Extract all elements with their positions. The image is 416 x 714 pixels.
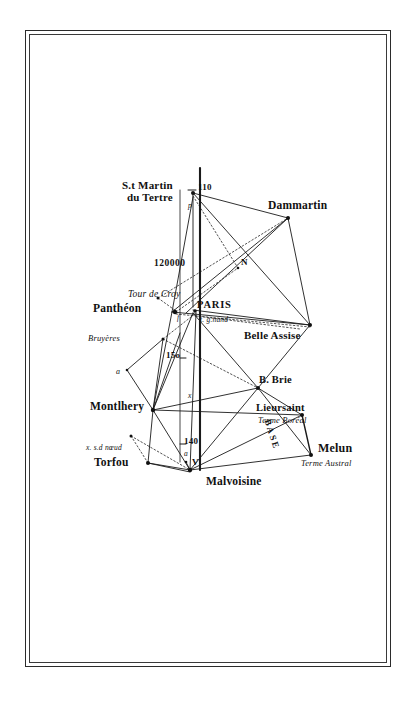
label-second-noeud: x. s.d nœud [86,444,122,452]
label-invalides: Tour de Croy [128,290,180,300]
label-brie: B. Brie [259,374,292,385]
side-dammartin-pantheon [172,218,288,312]
label-graduation-140: 140 [184,437,198,446]
side-montlhery-torfou [148,410,153,463]
side-montlhery-tourdecroy [153,339,163,410]
label-paris: PARIS [197,299,232,310]
point-melun [309,453,313,457]
label-montlhery: Montlhery [90,400,144,412]
label-graduation-110: 110 [198,183,212,192]
label-torfou: Torfou [94,456,129,468]
point-malvoisine [188,468,192,472]
label-st-martin-line2: du Tertre [127,191,173,203]
point-montlhery [151,408,155,412]
point-node-n [237,267,240,270]
label-pantheon: Panthéon [93,302,141,314]
side-melun-malvoisine [190,455,311,470]
label-node-f: f [177,314,179,322]
label-node-p: p [188,202,192,210]
label-lieursaint: Lieursaint [256,402,305,413]
label-node-x-montlhery: x [188,392,192,400]
point-torfou [146,461,150,465]
point-bruyeres [130,435,133,438]
label-tour-de-croy: Bruyères [88,334,120,343]
label-scale-denominator: 120000 [154,259,186,269]
label-st-martin-line1: S.t Martin [122,179,173,191]
label-belle-assise: Belle Assise [244,330,300,342]
point-tour-de-croy [162,338,165,341]
point-dammartin [286,216,290,220]
point-node-a-croy [126,369,129,372]
label-t-grenand: t. g.nand [200,316,228,324]
side-paris-brie [193,313,258,388]
side-a-tourdecroy [127,339,163,370]
point-st-martin-du-tertre [191,191,195,195]
label-terme-austral: Terme Austral [301,459,352,468]
point-brie [256,386,260,390]
label-graduation-150: 15o [166,351,180,360]
ray-tourdecroy-brie [163,339,258,388]
label-melun: Melun [318,442,352,455]
label-node-v: V [192,458,199,467]
point-node-v [185,461,188,464]
label-node-n: N [241,258,248,267]
label-node-a-croy: a [116,368,120,376]
side-torfou-malvoisine-lower [148,463,190,472]
engraved-plate: S.t Martin du Tertre 110 Dammartin N 120… [0,0,416,714]
side-dammartin-belleassise [288,218,310,325]
point-belle-assise [308,323,312,327]
ray-bruyeres-torfou [131,436,148,463]
triangulation-network [0,0,416,714]
side-paris-montlhery [153,313,193,410]
side-pantheon-montlhery [153,312,172,410]
label-dammartin: Dammartin [268,199,327,211]
label-malvoisine: Malvoisine [206,475,262,487]
label-node-a-malvoisine: a [184,450,188,458]
label-st-martin-du-tertre: S.t Martin du Tertre [122,180,173,203]
